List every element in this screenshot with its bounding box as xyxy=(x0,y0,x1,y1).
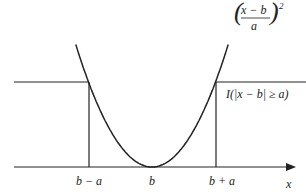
tick-label-b-minus-a: b − a xyxy=(76,174,102,188)
tick-label-b: b xyxy=(149,174,155,188)
x-axis-label: x xyxy=(285,177,292,191)
parabola-exponent: 2 xyxy=(279,1,284,11)
parabola-denominator: a xyxy=(251,19,257,33)
x-axis-arrow-icon xyxy=(286,163,296,171)
parabola-label: ( x − b a ) 2 xyxy=(234,0,284,33)
parabola-numerator: x − b xyxy=(240,3,266,17)
diagram: ( x − b a ) 2 I(|x − b| ≥ a) b − a b b +… xyxy=(0,0,306,194)
indicator-label: I(|x − b| ≥ a) xyxy=(225,87,289,101)
tick-label-b-plus-a: b + a xyxy=(209,174,235,188)
paren-right: ) xyxy=(268,0,279,26)
parabola-curve xyxy=(76,45,228,167)
